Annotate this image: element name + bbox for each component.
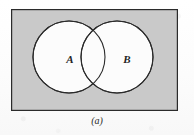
set-a-label: A bbox=[64, 54, 76, 65]
set-b-label: B bbox=[121, 54, 133, 65]
figure-page: A B (a) bbox=[0, 0, 194, 135]
set-circles-layer bbox=[11, 9, 178, 111]
figure-caption: (a) bbox=[0, 116, 194, 126]
